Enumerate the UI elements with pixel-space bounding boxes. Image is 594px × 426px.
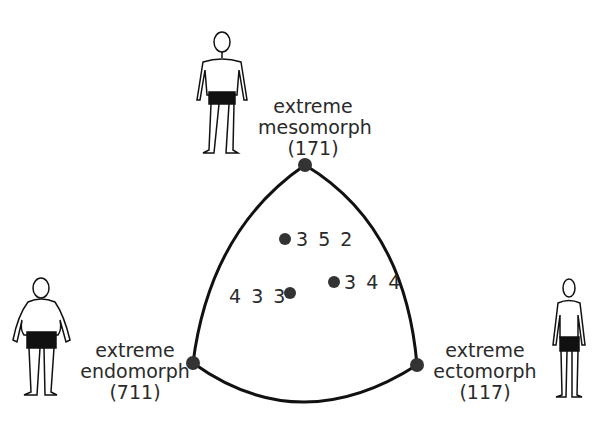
label-ectomorph-code: (117) <box>430 382 540 403</box>
label-endomorph-code: (711) <box>80 382 190 403</box>
vertex-dot-mesomorph <box>298 158 312 172</box>
point-dot-344 <box>328 276 340 288</box>
point-dot-352 <box>279 233 291 245</box>
label-mesomorph-line2: mesomorph <box>258 117 368 138</box>
ectomorph-figure <box>553 279 585 397</box>
label-endomorph: extreme endomorph (711) <box>80 340 190 403</box>
point-label-352: 3 5 2 <box>296 228 354 250</box>
label-mesomorph-line1: extreme <box>258 96 368 117</box>
label-mesomorph: extreme mesomorph (171) <box>258 96 368 159</box>
point-label-344: 3 4 4 <box>344 271 402 293</box>
endomorph-figure <box>13 278 70 395</box>
label-endomorph-line1: extreme <box>80 340 190 361</box>
label-ectomorph-line1: extreme <box>430 340 540 361</box>
label-ectomorph: extreme ectomorph (117) <box>430 340 540 403</box>
label-endomorph-line2: endomorph <box>80 361 190 382</box>
label-ectomorph-line2: ectomorph <box>430 361 540 382</box>
vertex-dot-ectomorph <box>410 358 424 372</box>
label-mesomorph-code: (171) <box>258 138 368 159</box>
mesomorph-figure <box>197 32 247 153</box>
point-label-433: 4 3 3 <box>229 285 287 307</box>
